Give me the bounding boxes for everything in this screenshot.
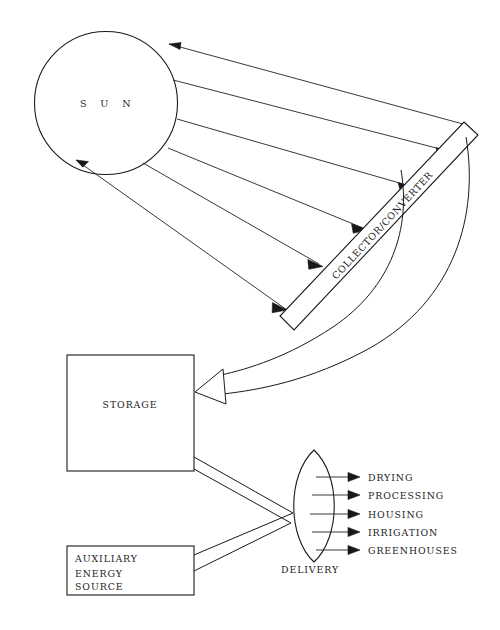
storage-label: STORAGE xyxy=(103,399,158,410)
delivery-label: DELIVERY xyxy=(281,564,339,575)
output-label-drying: DRYING xyxy=(368,472,413,483)
solar-ray-3 xyxy=(177,119,414,192)
output-label-group: DRYING PROCESSING HOUSING IRRIGATION GRE… xyxy=(368,472,458,556)
sun-node: S U N xyxy=(35,32,178,175)
arrowhead-icon xyxy=(348,472,360,481)
arrowhead-icon xyxy=(308,260,323,270)
arrowhead-icon xyxy=(348,490,360,499)
solar-ray-1 xyxy=(169,43,463,125)
solar-ray-5 xyxy=(143,163,323,269)
arrowhead-icon xyxy=(348,527,360,536)
output-label-housing: HOUSING xyxy=(368,509,424,520)
arrowhead-icon xyxy=(169,43,181,50)
auxiliary-label-line-2: ENERGY xyxy=(75,568,123,579)
collector-node: COLLECTOR/CONVERTER xyxy=(280,122,478,330)
collector-label: COLLECTOR/CONVERTER xyxy=(330,169,435,281)
arrowhead-icon xyxy=(348,545,360,554)
hollow-arrowhead-icon xyxy=(195,369,226,404)
solar-ray-4 xyxy=(168,148,367,233)
solar-energy-flow-diagram: S U N xyxy=(0,0,500,630)
delivery-lens xyxy=(294,450,335,562)
output-label-processing: PROCESSING xyxy=(368,490,444,501)
delivery-node: DELIVERY xyxy=(281,450,339,575)
storage-to-delivery-flow xyxy=(194,457,293,523)
auxiliary-label-line-3: SOURCE xyxy=(75,581,124,592)
solar-ray-6 xyxy=(76,160,287,313)
auxiliary-node: AUXILIARY ENERGY SOURCE xyxy=(67,546,194,595)
storage-node: STORAGE xyxy=(67,355,194,471)
diagram-canvas: S U N xyxy=(0,0,500,630)
output-label-irrigation: IRRIGATION xyxy=(368,527,438,538)
solar-ray-2 xyxy=(173,80,452,157)
sun-label: S U N xyxy=(80,98,136,109)
auxiliary-to-delivery-flow xyxy=(194,513,293,571)
storage-box xyxy=(67,355,194,471)
output-label-greenhouses: GREENHOUSES xyxy=(368,545,458,556)
arrowhead-icon xyxy=(348,509,360,518)
auxiliary-label-line-1: AUXILIARY xyxy=(74,553,138,564)
